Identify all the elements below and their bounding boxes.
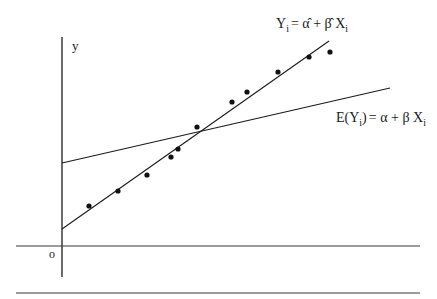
data-point [175, 146, 180, 151]
data-point [86, 203, 91, 208]
data-point [306, 54, 311, 59]
fitted-regression-line [62, 41, 329, 229]
data-point [244, 89, 249, 94]
data-point [229, 99, 234, 104]
regression-diagram: y o Yi= α̂ + β̂ Xi E(Yi)= α + β Xi [0, 0, 437, 299]
data-point [144, 172, 149, 177]
data-point [115, 188, 120, 193]
data-point [275, 69, 280, 74]
fitted-equation-label: Yi= α̂ + β̂ Xi [276, 16, 348, 34]
data-point [168, 154, 173, 159]
data-point [327, 49, 332, 54]
population-regression-line [62, 88, 390, 163]
origin-label: o [49, 247, 55, 261]
population-equation-label: E(Yi)= α + β Xi [336, 110, 426, 128]
y-axis-label: y [72, 38, 79, 53]
data-point [194, 124, 199, 129]
